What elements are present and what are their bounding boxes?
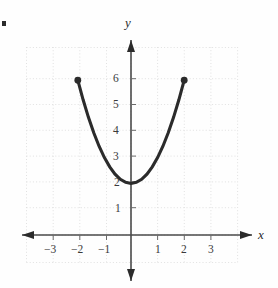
- coordinate-plane: [0, 0, 278, 288]
- curve-endpoint-left: [74, 77, 81, 84]
- y-axis-arrow-up: [127, 40, 135, 52]
- x-tick-label-1: 1: [155, 244, 161, 256]
- y-tick-label-5: 5: [113, 99, 119, 111]
- x-axis-arrow-left: [22, 231, 34, 239]
- x-axis-arrow-right: [240, 231, 252, 239]
- y-axis-arrow-down: [127, 269, 135, 281]
- x-axis: [22, 231, 252, 239]
- x-tick-label-3: 3: [208, 244, 214, 256]
- curve-endpoint-right: [181, 77, 188, 84]
- x-tick-label-neg3: −3: [44, 244, 56, 256]
- grid-horizontal-lines: [27, 48, 238, 263]
- x-tick-label-neg2: −2: [71, 244, 83, 256]
- grid-vertical-lines: [27, 47, 238, 263]
- graph-figure: 6 5 4 3 2 1 −3 −2 −1 1 2 3 y x: [0, 0, 278, 288]
- y-tick-label-3: 3: [113, 151, 119, 163]
- x-tick-label-2: 2: [181, 244, 187, 256]
- y-tick-label-2: 2: [114, 177, 120, 189]
- x-axis-label: x: [258, 228, 264, 241]
- y-tick-label-6: 6: [113, 73, 119, 85]
- y-tick-label-4: 4: [113, 125, 119, 137]
- y-axis: [127, 40, 135, 281]
- y-tick-label-1: 1: [115, 203, 121, 215]
- x-tick-label-neg1: −1: [98, 244, 110, 256]
- y-axis-label: y: [125, 16, 131, 29]
